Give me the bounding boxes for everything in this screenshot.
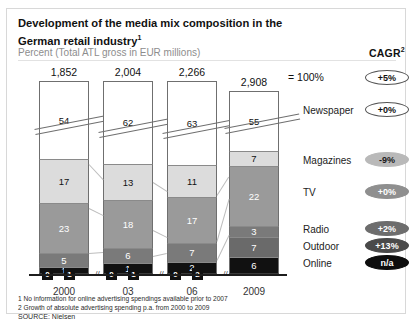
bar-segment-magazines: 11: [167, 165, 217, 197]
equals-100-label: = 100%: [288, 71, 324, 83]
bar-segment-tv: 22: [229, 166, 279, 226]
segment-leader-line: [153, 230, 167, 238]
slide-card: Development of the media mix composition…: [6, 8, 406, 314]
bar-total-label: 1,852: [34, 66, 94, 78]
cagr-badge: +2%: [365, 221, 409, 236]
bar-total-label: 2,266: [162, 66, 222, 78]
source-line: SOURCE: Nielsen: [18, 313, 75, 320]
segment-leader-line: [217, 235, 230, 260]
bar-segment-tv: 18: [103, 200, 153, 248]
legend-label-online: Online: [303, 258, 332, 269]
bar-total-label: 2,908: [224, 76, 284, 88]
cagr-badge: +13%: [365, 238, 409, 253]
bar-segment-radio: 7: [167, 243, 217, 262]
segment-leader-line: [153, 182, 168, 192]
bar-segment-tv: 23: [39, 203, 89, 253]
bar-segment-magazines: 17: [39, 159, 89, 203]
segment-leader-line: [89, 252, 103, 254]
legend-label-outdoor: Outdoor: [303, 241, 339, 252]
bar-segment-radio: 3: [229, 226, 279, 237]
bar-total-label: 2,004: [98, 66, 158, 78]
legend-label-tv: TV: [303, 187, 316, 198]
bar-segment-radio: 5: [39, 253, 89, 267]
cagr-badge: -9%: [365, 152, 409, 167]
bar-segment-radio: 6: [103, 248, 153, 263]
footnote-1: 1 No information for online advertising …: [18, 294, 228, 303]
cagr-badge: +5%: [365, 70, 409, 85]
footnote-2: 2 Growth of absolute advertising spendin…: [18, 303, 209, 312]
x-axis-line: [29, 274, 287, 276]
cagr-badge: n/a: [365, 255, 409, 270]
bar-segment-magazines: 7: [229, 151, 279, 166]
segment-leader-line: [153, 253, 167, 257]
bar-segment-tv: 17: [167, 197, 217, 243]
legend-label-newspaper: Newspaper: [303, 105, 354, 116]
segment-leader-line: [217, 176, 230, 196]
cagr-badge: +0%: [365, 102, 409, 117]
legend-label-magazines: Magazines: [303, 155, 351, 166]
cagr-badge: +0%: [365, 184, 409, 199]
segment-leader-line: [89, 164, 104, 180]
legend-label-radio: Radio: [303, 224, 329, 235]
x-axis-label: 2009: [224, 286, 284, 297]
segment-leader-line: [89, 208, 103, 216]
bar-segment-magazines: 13: [103, 164, 153, 200]
bar-segment-online: 6: [229, 257, 279, 274]
bar-segment-outdoor: 7: [229, 237, 279, 257]
stacked-bar-chart: 1,85254172351200001//2,004621318610301//…: [7, 9, 407, 315]
